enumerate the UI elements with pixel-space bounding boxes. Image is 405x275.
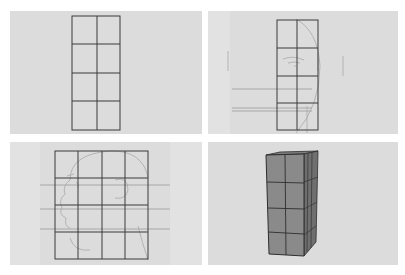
grid-2x4 xyxy=(277,20,318,130)
panel-plain-grid xyxy=(10,11,202,134)
panel-front-face-grid xyxy=(208,11,398,134)
extruded-grid-block xyxy=(266,151,318,256)
grid-2x4 xyxy=(72,16,120,130)
profile-head-drawing xyxy=(10,142,202,265)
front-face-drawing xyxy=(208,11,398,134)
panel-extruded-block xyxy=(208,142,398,265)
extruded-block-drawing xyxy=(208,142,398,265)
horizontal-guide-lines xyxy=(232,89,312,111)
horizontal-guide-lines xyxy=(40,185,170,229)
grid-4x4 xyxy=(55,151,148,259)
plain-grid-drawing xyxy=(10,11,202,134)
panel-profile-head-grid xyxy=(10,142,202,265)
